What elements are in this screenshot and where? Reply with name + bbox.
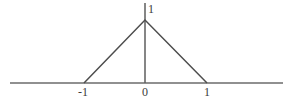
triangular-function-figure: 1 -1 0 1 — [0, 0, 289, 107]
x-tick-label-positive-one: 1 — [204, 86, 210, 98]
x-tick-label-zero: 0 — [142, 86, 148, 98]
peak-height-label: 1 — [148, 3, 154, 15]
x-tick-label-negative-one: -1 — [78, 86, 88, 98]
